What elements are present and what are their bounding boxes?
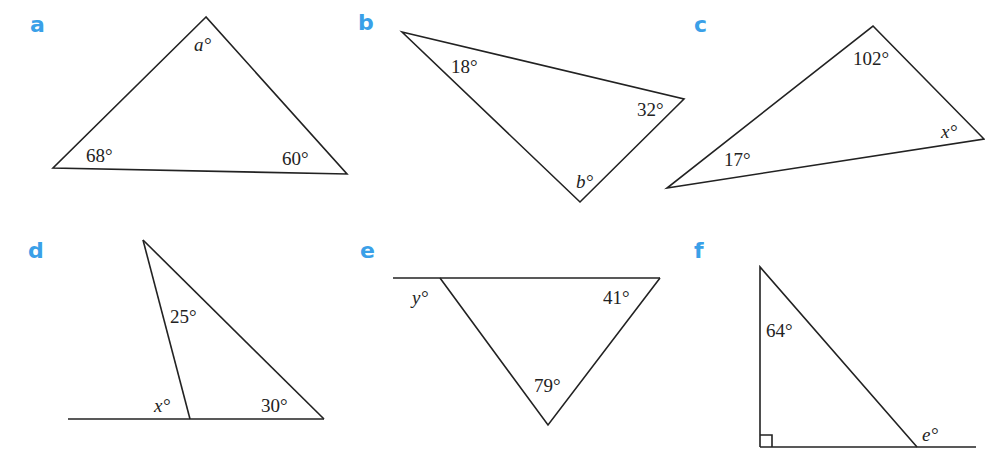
angle-f-exterior: e° [922,424,938,445]
geometry-diagrams: a° 68° 60° 18° 32° b° 102° x° 17° 25° x°… [0,0,985,457]
triangle-f: 64° e° [760,267,976,447]
angle-c-left: 17° [724,149,751,170]
angle-f-top: 64° [766,320,793,341]
angle-d-top: 25° [170,306,197,327]
angle-e-right: 41° [603,287,630,308]
angle-d-right: 30° [261,395,288,416]
angle-b-bottom: b° [576,171,594,192]
angle-e-exterior: y° [410,287,428,308]
angle-b-top: 18° [451,56,478,77]
angle-b-right: 32° [637,99,664,120]
angle-c-top: 102° [853,48,889,69]
triangle-c: 102° x° 17° [667,26,984,188]
angle-e-bottom: 79° [534,375,561,396]
triangle-d: 25° x° 30° [68,240,324,419]
right-angle-marker [760,435,772,447]
angle-a-left: 68° [86,145,113,166]
angle-c-right: x° [940,121,957,142]
angle-d-exterior: x° [153,395,170,416]
angle-a-right: 60° [282,148,309,169]
triangle-b: 18° 32° b° [402,32,684,202]
triangle-e: y° 41° 79° [393,278,660,425]
triangle-a: a° 68° 60° [53,17,347,174]
angle-a-top: a° [194,34,212,55]
